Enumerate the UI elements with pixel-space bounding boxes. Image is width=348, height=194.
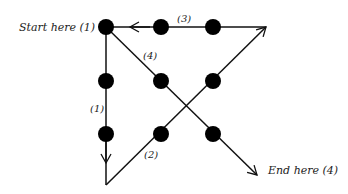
dot xyxy=(205,19,221,35)
segment-4 xyxy=(106,27,257,175)
end-label: End here (4) xyxy=(267,164,338,177)
nine-dots-diagram: Start here (1) End here (4) (1) (2) (3) … xyxy=(0,0,348,194)
dot xyxy=(205,73,221,89)
segment-2-label: (2) xyxy=(144,149,158,160)
dot xyxy=(205,126,221,142)
dot xyxy=(153,126,169,142)
segment-4-label: (4) xyxy=(143,50,157,61)
dot xyxy=(98,73,114,89)
dot xyxy=(153,73,169,89)
dot xyxy=(98,126,114,142)
start-label: Start here (1) xyxy=(19,21,95,34)
dot xyxy=(153,19,169,35)
segment-1-label: (1) xyxy=(90,103,104,114)
segment-3-label: (3) xyxy=(177,13,191,24)
dot xyxy=(98,19,114,35)
